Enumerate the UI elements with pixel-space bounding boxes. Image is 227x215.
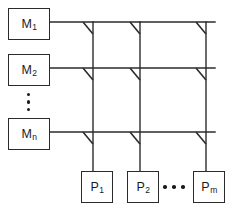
processor-node-label: Pm	[201, 181, 216, 194]
ellipsis-dot	[27, 100, 30, 103]
ellipsis-dot	[27, 93, 30, 96]
memory-node-mn[interactable]: Mn	[8, 118, 50, 150]
processor-node-subscript: m	[210, 185, 217, 195]
memory-node-subscript: 2	[32, 68, 37, 78]
memory-node-label: M1	[21, 18, 36, 31]
crosspoint-switch-group	[83, 22, 206, 144]
memory-node-subscript: n	[32, 132, 37, 142]
memory-node-label: Mn	[21, 128, 36, 141]
crosspoint-switch-sw-M2-P2	[130, 68, 140, 80]
memory-ellipsis-icon	[27, 93, 30, 111]
ellipsis-dot	[172, 185, 176, 189]
vertical-bus-group	[93, 22, 206, 171]
memory-node-subscript: 1	[32, 22, 37, 32]
crosspoint-switch-sw-M1-P1	[83, 22, 93, 34]
processor-node-pm[interactable]: Pm	[193, 171, 225, 203]
processor-node-subscript: 2	[145, 185, 150, 195]
processor-node-label: P2	[136, 181, 149, 194]
crosspoint-switch-sw-M1-P2	[130, 22, 140, 34]
crosspoint-switch-sw-M1-Pm	[196, 22, 206, 34]
processor-node-label: P1	[90, 181, 103, 194]
processor-node-p2[interactable]: P2	[127, 171, 159, 203]
memory-node-m2[interactable]: M2	[8, 54, 50, 86]
processor-node-subscript: 1	[99, 185, 104, 195]
crosspoint-switch-sw-Mn-Pm	[196, 132, 206, 144]
processor-node-p1[interactable]: P1	[81, 171, 113, 203]
crosspoint-switch-sw-M2-P1	[83, 68, 93, 80]
ellipsis-dot	[27, 108, 30, 111]
crosspoint-switch-sw-M2-Pm	[196, 68, 206, 80]
crosspoint-switch-sw-Mn-P2	[130, 132, 140, 144]
memory-node-m1[interactable]: M1	[8, 8, 50, 40]
memory-node-label: M2	[21, 64, 36, 77]
ellipsis-dot	[181, 185, 185, 189]
horizontal-bus-group	[50, 22, 215, 132]
crosspoint-switch-sw-Mn-P1	[83, 132, 93, 144]
processor-ellipsis-icon	[163, 185, 185, 189]
crossbar-network-figure: M1M2Mn P1P2Pm	[0, 0, 227, 215]
ellipsis-dot	[163, 185, 167, 189]
